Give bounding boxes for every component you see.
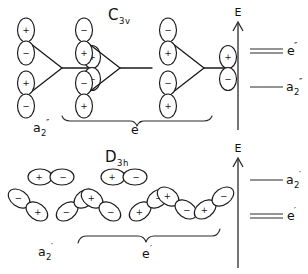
group-label-sub: 2 (46, 252, 51, 262)
point-group-letter: D (105, 148, 117, 166)
lobe-sign-second: − (183, 205, 190, 215)
group-label-prime: ′ (51, 242, 53, 252)
level-label-prime: ′ (294, 206, 296, 216)
orbital-bottom-left: − + (160, 71, 177, 118)
energy-axis-bottom: E (233, 142, 243, 268)
point-group-element: h (123, 158, 128, 168)
group-label-e-prime: e ′ (142, 244, 152, 261)
orbital-bottom-left: + − (18, 71, 35, 118)
lobe-sign-lower: + (80, 101, 87, 111)
lobe-sign-upper: − (80, 78, 87, 88)
lobe-sign-second: − (132, 172, 139, 182)
point-group-element: v (125, 16, 130, 26)
lobe-sign-lower: + (164, 101, 171, 111)
lobe-sign-lower: − (22, 101, 29, 111)
group-label-letter: e (142, 246, 150, 261)
lobe-sign-upper: + (22, 78, 29, 88)
lobe-sign-upper: − (164, 25, 171, 35)
energy-axis-top: E (233, 6, 243, 130)
group-label-letter: a (38, 244, 46, 259)
lobe-sign-upper: − (80, 25, 87, 35)
orbital-top-left: + − (18, 18, 35, 65)
level-label-letter: a (286, 79, 294, 94)
brace-e-prime (78, 229, 220, 243)
level-label-sub: 2 (294, 87, 299, 97)
energy-level-e-prime: e ′ (250, 206, 296, 223)
level-label-letter: a (286, 172, 294, 187)
point-group-label-c3v: C 3 v (108, 6, 130, 26)
orbital-set-e-double-prime-2: − + − + + − (160, 18, 237, 118)
lobe-sign-second: − (107, 207, 114, 217)
group-label-letter: e (131, 122, 139, 137)
group-label-sub: 2 (41, 128, 46, 138)
group-label-letter: a (33, 120, 41, 135)
panel-bottom-d3h: D 3 h + − − + − (5, 142, 301, 268)
lobe-sign-upper: + (22, 25, 29, 35)
point-group-order: 3 (117, 158, 122, 168)
energy-axis-label: E (235, 6, 242, 19)
lobe-sign-lower: − (224, 74, 231, 84)
orbital-top-left: − + (160, 18, 177, 65)
lobe-sign-second: − (59, 172, 66, 182)
lobe-sign-first: + (35, 172, 42, 182)
orbital-set-e-prime-2: + − + − (154, 183, 238, 223)
group-label-a2-prime: a 2 ′ (38, 242, 53, 262)
level-label-prime: ″ (299, 77, 303, 87)
group-label-prime: ″ (46, 118, 50, 128)
group-label-a2-double-prime: a 2 ″ (33, 118, 50, 138)
lobe-sign-first: − (63, 207, 70, 217)
orbital-top: + − (28, 169, 74, 185)
group-label-e-double-prime: e ″ (131, 120, 143, 137)
group-label-prime: ′ (150, 244, 152, 254)
lobe-sign-first: + (88, 193, 95, 203)
lobe-sign-lower: + (164, 48, 171, 58)
point-group-letter: C (108, 6, 118, 24)
orbital-bottom-left: − + (76, 71, 93, 118)
energy-axis-label: E (235, 142, 242, 155)
lobe-sign-first: + (164, 191, 171, 201)
lobe-sign-upper: − (164, 78, 171, 88)
level-label-prime: ″ (294, 41, 298, 51)
lobe-sign-first: − (15, 193, 22, 203)
level-label-sub: 2 (294, 180, 299, 190)
lobe-sign-first: + (136, 207, 143, 217)
orbital-lower-left: − + (5, 185, 52, 225)
energy-level-e-double-prime: e ″ (250, 41, 298, 58)
energy-level-a2-double-prime: a 2 ″ (250, 77, 303, 97)
lobe-sign-second: − (220, 191, 227, 201)
mo-symmetry-figure: C 3 v + − + − (0, 0, 308, 274)
lobe-sign-second: + (34, 207, 41, 217)
orbital-lower-right: + − (191, 183, 238, 223)
orbital-top: + − (101, 169, 147, 185)
energy-level-a2-prime: a 2 ′ (250, 170, 301, 190)
lobe-sign-first: + (108, 172, 115, 182)
panel-top-c3v: C 3 v + − + − (18, 6, 304, 138)
orbital-top-left: − + (76, 18, 93, 65)
lobe-sign-lower: + (80, 48, 87, 58)
lobe-sign-first: + (201, 205, 208, 215)
point-group-order: 3 (119, 16, 124, 26)
lobe-sign-lower: − (22, 48, 29, 58)
point-group-label-d3h: D 3 h (105, 148, 128, 168)
level-label-prime: ′ (299, 170, 301, 180)
figure-canvas: C 3 v + − + − (0, 0, 308, 274)
lobe-sign-upper: + (224, 52, 231, 62)
